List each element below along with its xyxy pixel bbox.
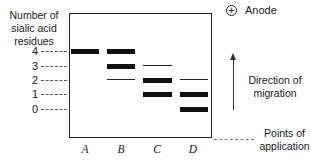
band-C-3 — [143, 65, 172, 66]
tick-guide-4 — [41, 51, 67, 52]
direction-label: Direction of migration — [240, 74, 310, 100]
band-C-2 — [143, 78, 172, 83]
tick-guide-3 — [41, 66, 67, 67]
band-C-1 — [143, 92, 172, 97]
band-B-2 — [107, 79, 135, 80]
anode-label: Anode — [245, 4, 277, 16]
lane-label-A: A — [78, 143, 92, 155]
band-D-2 — [180, 79, 208, 80]
tick-guide-1 — [41, 94, 67, 95]
application-guide — [214, 139, 254, 140]
y-axis-label: Number of sialic acid residues — [6, 9, 62, 48]
band-B-4 — [107, 49, 135, 54]
tick-guide-0 — [41, 109, 67, 110]
tick-3: 3 — [28, 60, 38, 72]
lane-label-B: B — [114, 143, 128, 155]
tick-2: 2 — [28, 74, 38, 86]
band-D-1 — [180, 92, 208, 97]
migration-arrow — [233, 58, 234, 110]
tick-1: 1 — [28, 88, 38, 100]
lane-label-C: C — [150, 143, 164, 155]
tick-guide-2 — [41, 80, 67, 81]
band-B-3 — [107, 64, 135, 69]
lane-label-D: D — [186, 143, 200, 155]
electrophoresis-gel — [69, 13, 212, 138]
band-D-0 — [180, 107, 208, 112]
tick-4: 4 — [28, 45, 38, 57]
tick-0: 0 — [28, 103, 38, 115]
points-of-application-label: Points of application — [258, 127, 311, 153]
band-A-4 — [71, 49, 99, 54]
plus-circle-icon: + — [226, 5, 237, 16]
